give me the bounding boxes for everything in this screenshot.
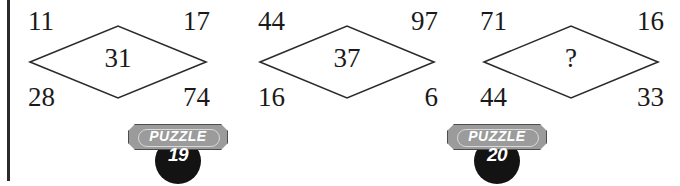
puzzle-3-bottom-right: 33 <box>637 84 664 111</box>
page-left-rule <box>7 0 10 181</box>
puzzle-3-top-left: 71 <box>480 8 507 35</box>
puzzle-badge-20-label: PUZZLE <box>443 128 551 144</box>
puzzle-1-top-right: 17 <box>183 8 210 35</box>
puzzle-group-3: 71 16 ? 44 33 <box>470 0 672 120</box>
puzzle-group-1: 11 17 31 28 74 <box>18 0 218 120</box>
puzzle-badge-19-label: PUZZLE <box>124 128 232 144</box>
puzzle-group-2: 44 97 37 16 6 <box>248 0 446 120</box>
puzzle-1-center: 31 <box>18 45 218 72</box>
puzzle-2-bottom-left: 16 <box>258 84 285 111</box>
puzzle-2-center: 37 <box>248 45 446 72</box>
puzzle-badge-19-number: 19 <box>124 144 232 166</box>
puzzle-1-bottom-right: 74 <box>183 84 210 111</box>
puzzle-1-top-left: 11 <box>28 8 54 35</box>
puzzle-2-top-right: 97 <box>411 8 438 35</box>
puzzle-3-center-answer: ? <box>470 45 672 72</box>
puzzle-1-bottom-left: 28 <box>28 84 55 111</box>
puzzle-badge-20: 20 PUZZLE <box>443 122 551 184</box>
puzzle-badge-20-number: 20 <box>443 144 551 166</box>
puzzle-badge-19: 19 PUZZLE <box>124 122 232 184</box>
puzzle-page: 11 17 31 28 74 44 97 37 16 6 71 16 ? 44 … <box>0 0 680 186</box>
puzzle-2-bottom-right: 6 <box>425 84 439 111</box>
puzzle-3-top-right: 16 <box>637 8 664 35</box>
puzzle-2-top-left: 44 <box>258 8 285 35</box>
puzzle-3-bottom-left: 44 <box>480 84 507 111</box>
